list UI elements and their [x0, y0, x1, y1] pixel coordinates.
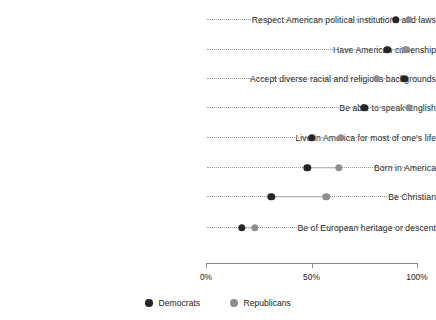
plot-area — [0, 0, 436, 320]
x-axis-tick — [417, 263, 418, 268]
row-guide-line — [207, 19, 419, 21]
data-point-republicans[interactable] — [405, 16, 412, 23]
legend-label: Republicans — [244, 298, 291, 308]
data-point-republicans[interactable] — [323, 193, 330, 200]
data-point-democrats[interactable] — [384, 46, 391, 53]
legend-item-republicans[interactable]: Republicans — [230, 298, 291, 308]
data-point-republicans[interactable] — [373, 75, 380, 82]
data-point-democrats[interactable] — [238, 224, 245, 231]
filled-circle-icon — [145, 299, 152, 306]
data-point-democrats[interactable] — [401, 75, 408, 82]
x-axis-tick — [206, 263, 207, 268]
dumbbell-connector — [307, 167, 339, 168]
data-point-republicans[interactable] — [251, 224, 258, 231]
chart-legend: DemocratsRepublicans — [0, 298, 436, 308]
dumbbell-connector — [364, 107, 408, 108]
data-point-republicans[interactable] — [335, 164, 342, 171]
data-point-democrats[interactable] — [308, 134, 315, 141]
data-point-republicans[interactable] — [337, 134, 344, 141]
filled-circle-icon — [230, 299, 237, 306]
data-point-democrats[interactable] — [392, 16, 399, 23]
dumbbell-connector — [271, 196, 326, 197]
x-axis-tick-label: 100% — [406, 272, 427, 282]
legend-label: Democrats — [159, 298, 201, 308]
x-axis-tick-label: 50% — [303, 272, 320, 282]
data-point-democrats[interactable] — [304, 164, 311, 171]
data-point-republicans[interactable] — [403, 46, 410, 53]
data-point-republicans[interactable] — [405, 104, 412, 111]
data-point-democrats[interactable] — [361, 104, 368, 111]
x-axis-tick — [312, 263, 313, 268]
x-axis-tick-label: 0% — [200, 272, 212, 282]
dot-plot-chart: Respect American political institutions … — [0, 0, 436, 320]
legend-item-democrats[interactable]: Democrats — [145, 298, 200, 308]
data-point-democrats[interactable] — [268, 193, 275, 200]
